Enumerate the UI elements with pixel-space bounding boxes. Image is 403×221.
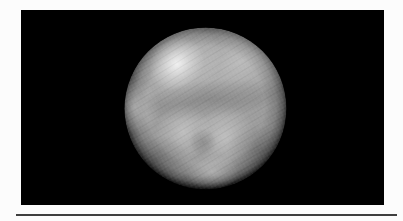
pluto-sphere-figure	[0, 0, 403, 221]
scan-line-texture	[125, 28, 287, 190]
bottom-separator-rule	[16, 214, 397, 216]
